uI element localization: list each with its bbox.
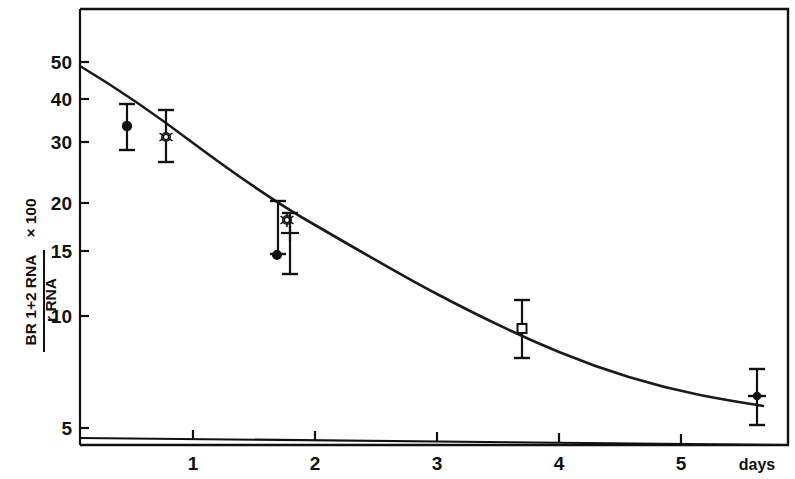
y-axis-label-numerator: BR 1+2 RNA (22, 255, 39, 346)
figure-root: 50 40 30 20 15 10 5 1 2 3 4 5 days BR 1+ (0, 0, 795, 479)
x-axis-unit-label: days (739, 456, 776, 473)
y-tick-label-30: 30 (51, 132, 72, 153)
y-tick-label-40: 40 (51, 89, 72, 110)
marker-filled-circle-5 (273, 251, 282, 260)
data-point-5 (273, 251, 282, 260)
x-tick-label-3: 3 (432, 453, 443, 474)
decay-chart: 50 40 30 20 15 10 5 1 2 3 4 5 days BR 1+ (0, 0, 795, 479)
y-tick-label-20: 20 (51, 193, 72, 214)
marker-filled-circle-1 (122, 121, 131, 130)
x-tick-label-4: 4 (554, 453, 565, 474)
y-axis-label-multiplier: × 100 (22, 198, 39, 237)
x-tick-label-1: 1 (188, 453, 199, 474)
x-tick-label-5: 5 (676, 453, 687, 474)
figure-background (0, 0, 795, 479)
x-tick-label-2: 2 (310, 453, 321, 474)
y-tick-label-5: 5 (61, 418, 72, 439)
y-tick-label-50: 50 (51, 52, 72, 73)
marker-open-square-6 (518, 324, 527, 333)
y-tick-label-15: 15 (51, 241, 73, 262)
